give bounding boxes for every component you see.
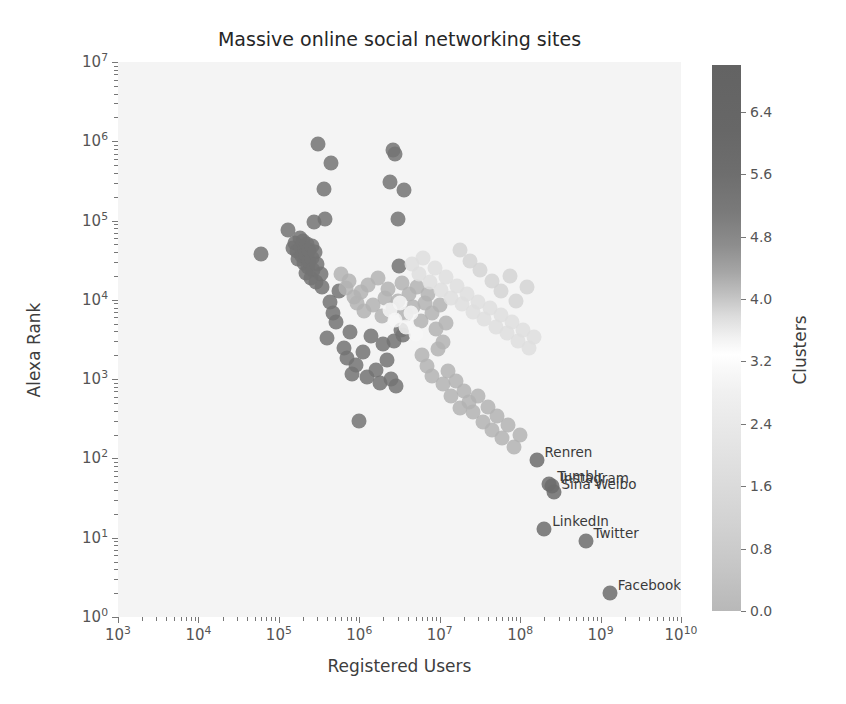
colorbar-tick-mark xyxy=(741,237,746,238)
x-tick-mark xyxy=(118,617,119,623)
x-axis-tick-labels: 1031041051061071081091010 xyxy=(0,626,846,652)
x-minor-tick-mark xyxy=(142,617,143,621)
y-minor-tick-mark xyxy=(114,341,118,342)
x-tick-label: 107 xyxy=(427,626,453,644)
y-minor-tick-mark xyxy=(114,303,118,304)
y-minor-tick-mark xyxy=(114,550,118,551)
x-minor-tick-mark xyxy=(181,617,182,621)
colorbar-tick-mark xyxy=(741,112,746,113)
scatter-plot-area: RenrenTumblrInstagramSina WeiboLinkedInT… xyxy=(118,62,681,617)
x-minor-tick-mark xyxy=(416,617,417,621)
x-minor-tick-mark xyxy=(576,617,577,621)
y-minor-tick-mark xyxy=(114,466,118,467)
y-minor-tick-mark xyxy=(114,514,118,515)
x-tick-label: 105 xyxy=(266,626,292,644)
colorbar-tick-mark xyxy=(741,486,746,487)
x-minor-tick-mark xyxy=(174,617,175,621)
x-minor-tick-mark xyxy=(625,617,626,621)
x-minor-tick-mark xyxy=(677,617,678,621)
x-tick-label: 104 xyxy=(185,626,211,644)
y-minor-tick-mark xyxy=(114,233,118,234)
y-minor-tick-mark xyxy=(114,490,118,491)
colorbar-tick-mark xyxy=(741,611,746,612)
y-minor-tick-mark xyxy=(114,500,118,501)
x-tick-label: 108 xyxy=(507,626,533,644)
y-tick-mark xyxy=(112,379,118,380)
scatter-point xyxy=(578,534,593,549)
y-minor-tick-mark xyxy=(114,74,118,75)
scatter-point xyxy=(546,484,561,499)
x-tick-label: 106 xyxy=(346,626,372,644)
x-tick-mark xyxy=(520,617,521,623)
y-tick-label: 103 xyxy=(82,370,108,388)
scatter-point xyxy=(382,174,397,189)
scatter-point xyxy=(390,211,405,226)
x-minor-tick-mark xyxy=(583,617,584,621)
chart-title: Massive online social networking sites xyxy=(118,28,681,50)
x-minor-tick-mark xyxy=(464,617,465,621)
scatter-point xyxy=(537,521,552,536)
y-axis-tick-labels: 100101102103104105106107 xyxy=(56,0,108,704)
x-tick-mark xyxy=(681,617,682,623)
x-minor-tick-mark xyxy=(266,617,267,621)
y-minor-tick-mark xyxy=(114,66,118,67)
colorbar xyxy=(712,65,741,611)
x-minor-tick-mark xyxy=(398,617,399,621)
x-tick-label: 109 xyxy=(588,626,614,644)
colorbar-tick-mark xyxy=(741,424,746,425)
y-minor-tick-mark xyxy=(114,476,118,477)
y-minor-tick-mark xyxy=(114,462,118,463)
x-minor-tick-mark xyxy=(673,617,674,621)
x-minor-tick-mark xyxy=(559,617,560,621)
x-tick-label: 1010 xyxy=(665,626,698,644)
y-minor-tick-mark xyxy=(114,471,118,472)
x-minor-tick-mark xyxy=(422,617,423,621)
y-tick-label: 106 xyxy=(82,132,108,150)
x-minor-tick-mark xyxy=(191,617,192,621)
x-minor-tick-mark xyxy=(508,617,509,621)
y-minor-tick-mark xyxy=(114,159,118,160)
x-minor-tick-mark xyxy=(255,617,256,621)
scatter-point xyxy=(342,325,357,340)
scatter-point xyxy=(527,330,542,345)
y-minor-tick-mark xyxy=(114,482,118,483)
x-minor-tick-mark xyxy=(341,617,342,621)
y-minor-tick-mark xyxy=(114,555,118,556)
x-tick-mark xyxy=(440,617,441,623)
x-minor-tick-mark xyxy=(351,617,352,621)
x-minor-tick-mark xyxy=(544,617,545,621)
y-minor-tick-mark xyxy=(114,94,118,95)
scatter-point xyxy=(311,137,326,152)
colorbar-tick-mark xyxy=(741,549,746,550)
y-minor-tick-mark xyxy=(114,324,118,325)
scatter-point xyxy=(342,273,357,288)
y-tick-label: 100 xyxy=(82,608,108,626)
y-minor-tick-mark xyxy=(114,224,118,225)
y-tick-label: 101 xyxy=(82,529,108,547)
x-axis-label: Registered Users xyxy=(118,656,681,676)
x-minor-tick-mark xyxy=(275,617,276,621)
scatter-point xyxy=(503,268,518,283)
y-minor-tick-mark xyxy=(114,103,118,104)
x-minor-tick-mark xyxy=(186,617,187,621)
point-annotation: Twitter xyxy=(594,525,639,541)
x-minor-tick-mark xyxy=(657,617,658,621)
scatter-point xyxy=(254,246,269,261)
y-minor-tick-mark xyxy=(114,403,118,404)
y-minor-tick-mark xyxy=(114,435,118,436)
x-minor-tick-mark xyxy=(588,617,589,621)
y-minor-tick-mark xyxy=(114,562,118,563)
x-minor-tick-mark xyxy=(223,617,224,621)
scatter-point xyxy=(397,183,412,198)
x-minor-tick-mark xyxy=(195,617,196,621)
y-tick-mark xyxy=(112,141,118,142)
colorbar-tick-mark xyxy=(741,299,746,300)
x-minor-tick-mark xyxy=(303,617,304,621)
x-minor-tick-mark xyxy=(271,617,272,621)
x-minor-tick-mark xyxy=(516,617,517,621)
point-annotation: Facebook xyxy=(618,577,681,593)
y-minor-tick-mark xyxy=(114,541,118,542)
y-minor-tick-mark xyxy=(114,387,118,388)
y-minor-tick-mark xyxy=(114,391,118,392)
y-tick-label: 102 xyxy=(82,449,108,467)
